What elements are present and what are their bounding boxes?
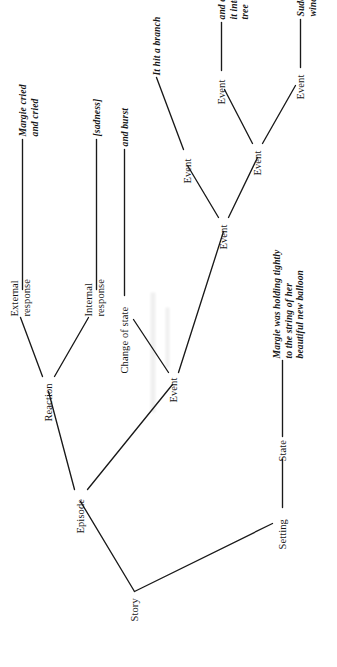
terminal-setting-line-3: beautiful new balloon <box>293 226 305 358</box>
node-state-label: State <box>276 440 287 462</box>
node-event-gust: Event <box>294 74 306 99</box>
terminal-gust-line-1: Suddenly, a gust of <box>294 0 306 16</box>
terminal-branch: It hit a branch <box>150 16 162 75</box>
terminal-gust: Suddenly, a gust of wind caught it <box>294 0 317 16</box>
node-reaction-label: Reaction <box>42 383 53 421</box>
node-event-carried-label: Event <box>215 79 226 104</box>
node-event-mid: Event <box>217 224 229 249</box>
terminal-carried-line-3: tree <box>238 0 250 19</box>
node-event-top-label: Event <box>167 377 178 402</box>
node-internal-response: Internal response <box>82 270 107 316</box>
edge-reaction-internal <box>54 317 88 376</box>
edge-event-eventmid <box>178 231 223 372</box>
terminal-internal: [sadness] <box>90 98 102 136</box>
terminal-external-line-1: Margie cried <box>16 54 28 136</box>
node-episode: Episode <box>74 498 86 533</box>
terminal-external: Margie cried and cried <box>16 54 39 136</box>
terminal-setting-line-1: Margie was holding tightly <box>270 226 282 358</box>
edge-story-setting <box>134 523 272 591</box>
terminal-carried-line-1: and carried <box>215 0 227 19</box>
node-event-branch-label: Event <box>181 158 192 183</box>
node-internal-response-line-2: response <box>94 270 106 316</box>
edge-lower-gust <box>262 85 295 143</box>
node-episode-label: Episode <box>74 498 85 533</box>
node-event-carried: Event <box>215 79 227 104</box>
edge-reaction-external <box>20 317 42 376</box>
node-external-response: External response <box>8 266 33 316</box>
node-setting-label: Setting <box>276 519 287 549</box>
scan-artifact <box>150 292 155 412</box>
edge-episode-event-top <box>87 384 172 489</box>
node-external-response-line-2: response <box>20 266 32 316</box>
node-story: Story <box>128 598 140 621</box>
node-event-lower: Event <box>251 150 263 175</box>
node-internal-response-line-1: Internal <box>82 270 94 316</box>
node-event-branch: Event <box>181 158 193 183</box>
terminal-carried-line-2: it into a <box>227 0 239 19</box>
terminal-branch-label: It hit a branch <box>150 16 161 75</box>
node-story-label: Story <box>128 598 139 621</box>
node-event-gust-label: Event <box>294 74 305 99</box>
node-event-top: Event <box>167 377 179 402</box>
figure-canvas: Story Setting State Episode Event Reacti… <box>0 0 337 667</box>
node-event-lower-label: Event <box>251 150 262 175</box>
terminal-change-of-state: and burst <box>118 108 130 147</box>
edge-branch-terminal <box>156 77 183 149</box>
node-external-response-line-1: External <box>8 266 20 316</box>
node-reaction: Reaction <box>42 383 54 421</box>
edge-lower-carried <box>224 89 252 143</box>
terminal-internal-label: [sadness] <box>90 98 101 136</box>
node-change-of-state-label: Change of state <box>118 306 129 373</box>
edge-story-episode <box>80 501 134 591</box>
terminal-external-line-2: and cried <box>28 54 40 136</box>
terminal-setting: Margie was holding tightly to the string… <box>270 226 305 358</box>
node-setting: Setting <box>276 519 288 549</box>
node-state: State <box>276 440 288 462</box>
terminal-setting-line-2: to the string of her <box>282 226 294 358</box>
node-change-of-state: Change of state <box>118 306 130 373</box>
terminal-gust-line-2: wind caught it <box>306 0 318 16</box>
terminal-change-of-state-label: and burst <box>118 108 129 147</box>
terminal-carried: and carried it into a tree <box>215 0 250 19</box>
scan-artifact <box>165 307 169 367</box>
node-event-mid-label: Event <box>217 224 228 249</box>
